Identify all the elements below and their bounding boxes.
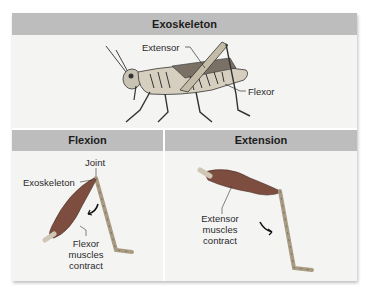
exoskeleton-label: Exoskeleton [23, 177, 75, 188]
joint-label: Joint [85, 157, 105, 168]
grasshopper-illustration [106, 42, 250, 122]
extensor-label: Extensor [142, 42, 180, 53]
extensor-caption: Extensor muscles contract [194, 213, 246, 246]
flexor-caption: Flexor muscles contract [64, 238, 108, 271]
illustrations [0, 0, 366, 293]
flexor-label: Flexor [248, 86, 274, 97]
